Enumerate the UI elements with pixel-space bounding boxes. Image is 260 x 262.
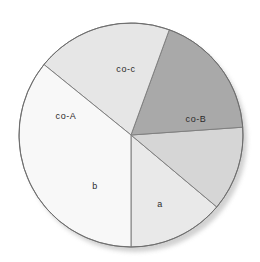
pie-slice-label-a: a	[157, 199, 163, 209]
pie-chart-figure: aco-Bco-cco-Ab	[0, 0, 260, 262]
pie-slice-label-b: b	[92, 181, 98, 191]
pie-slice-label-co-B: co-B	[186, 114, 207, 124]
pie-slices-group	[19, 23, 243, 247]
pie-chart-canvas: aco-Bco-cco-Ab	[0, 0, 260, 262]
pie-slice-label-co-A: co-A	[56, 111, 77, 121]
pie-slice-label-co-c: co-c	[116, 64, 135, 74]
